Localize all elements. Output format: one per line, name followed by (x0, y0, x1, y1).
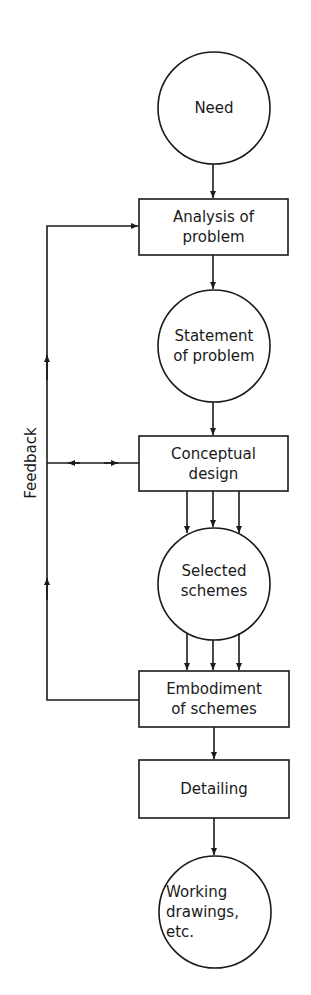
embodiment-label: Embodiment of schemes (139, 671, 289, 727)
need-label: Need (158, 88, 270, 128)
selected-label: Selected schemes (158, 556, 270, 606)
conceptual-label: Conceptual design (139, 436, 288, 491)
analysis-label: Analysis of problem (139, 199, 288, 255)
feedback-label: Feedback (20, 418, 42, 508)
working-label: Working drawings, etc. (166, 880, 266, 944)
flowchart-canvas (0, 0, 311, 995)
statement-label: Statement of problem (158, 321, 270, 371)
detailing-label: Detailing (139, 760, 289, 818)
